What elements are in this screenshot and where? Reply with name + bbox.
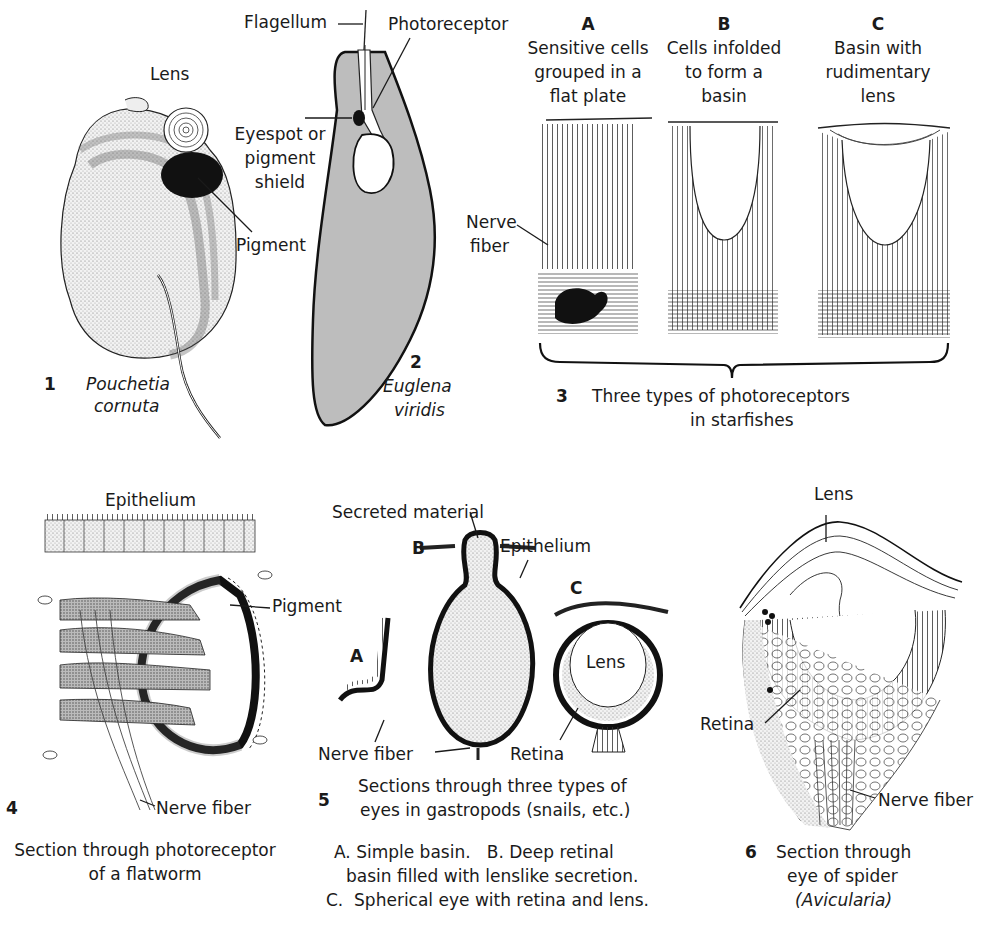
panel2-eyespot-line1: Eyespot or: [226, 124, 334, 144]
panel2-eyespot-line2: pigment: [226, 148, 334, 168]
panel3-subpanel-c-line1: Basin with: [808, 38, 948, 58]
panel5-letter-b: B: [412, 538, 425, 558]
panel6-lens-label: Lens: [814, 484, 853, 504]
panel2-eyespot-line3: shield: [226, 172, 334, 192]
panel6-caption-line3: (Avicularia): [795, 890, 892, 910]
panel2-number: 2: [410, 352, 422, 372]
panel3-subpanel-a-line1: Sensitive cells: [516, 38, 660, 58]
panel5-letter-a: A: [350, 646, 363, 666]
panel3-subpanel-c-letter: C: [828, 14, 928, 34]
panel5-epithelium-label: Epithelium: [500, 536, 591, 556]
panel3-subpanel-a-letter: A: [538, 14, 638, 34]
panel3-caption-line1: Three types of photoreceptors: [592, 386, 850, 406]
panel1-lens-label: Lens: [150, 64, 189, 84]
panel5-lens-label: Lens: [586, 652, 625, 672]
panel6-caption-line1: Section through: [776, 842, 911, 862]
panel5-legend-line2: basin filled with lenslike secretion.: [346, 866, 638, 886]
panel5-number: 5: [318, 790, 330, 810]
starfish-photoreceptors-drawing: [517, 118, 950, 378]
panel3-caption-line2: in starfishes: [690, 410, 794, 430]
panel4-pigment-label: Pigment: [272, 596, 342, 616]
panel5-retina-label: Retina: [510, 744, 564, 764]
lens-concentric-icon: [164, 108, 208, 152]
panel1-species-genus: Pouchetia: [86, 374, 170, 394]
panel1-number: 1: [44, 374, 56, 394]
pigment-blob: [161, 152, 223, 198]
panel5-legend-line1: A. Simple basin. B. Deep retinal: [334, 842, 614, 862]
panel4-caption-line2: of a flatworm: [0, 864, 290, 884]
panel2-species-genus: Euglena: [383, 376, 452, 396]
panel1-pigment-label: Pigment: [236, 235, 306, 255]
panel4-nerve-fiber-label: Nerve fiber: [156, 798, 251, 818]
panel3-subpanel-b-letter: B: [674, 14, 774, 34]
panel2-flagellum-label: Flagellum: [244, 12, 327, 32]
panel3-nerve-label-line2: fiber: [470, 236, 509, 256]
panel5-letter-c: C: [570, 578, 582, 598]
panel5-legend-line3: C. Spherical eye with retina and lens.: [326, 890, 649, 910]
panel3-subpanel-b-line2: to form a: [654, 62, 794, 82]
panel3-number: 3: [556, 386, 568, 406]
panel3-subpanel-a-line3: flat plate: [516, 86, 660, 106]
panel5-caption-line1: Sections through three types of: [358, 776, 627, 796]
brace-icon: [540, 343, 948, 378]
panel3-subpanel-a-line2: grouped in a: [516, 62, 660, 82]
panel3-subpanel-b-line1: Cells infolded: [654, 38, 794, 58]
panel3-subpanel-c-line3: lens: [808, 86, 948, 106]
panel5-secreted-material-label: Secreted material: [332, 502, 484, 522]
panel3-nerve-label-line1: Nerve: [466, 212, 517, 232]
panel2-photoreceptor-label: Photoreceptor: [388, 14, 508, 34]
panel1-species-epithet: cornuta: [94, 396, 159, 416]
panel4-epithelium-label: Epithelium: [105, 490, 196, 510]
panel3-subpanel-b-line3: basin: [654, 86, 794, 106]
panel6-caption-line2: eye of spider: [787, 866, 898, 886]
panel4-caption-line1: Section through photoreceptor: [0, 840, 290, 860]
panel5-caption-line2: eyes in gastropods (snails, etc.): [360, 800, 630, 820]
panel3-subpanel-c-line2: rudimentary: [808, 62, 948, 82]
spider-eye-drawing: [740, 515, 962, 830]
panel6-number: 6: [745, 842, 757, 862]
panel4-number: 4: [6, 798, 18, 818]
panel6-nerve-fiber-label: Nerve fiber: [878, 790, 973, 810]
panel5-nerve-fiber-label: Nerve fiber: [318, 744, 413, 764]
panel6-retina-label: Retina: [700, 714, 754, 734]
panel2-species-epithet: viridis: [394, 400, 445, 420]
flatworm-photoreceptor-drawing: [38, 514, 272, 810]
